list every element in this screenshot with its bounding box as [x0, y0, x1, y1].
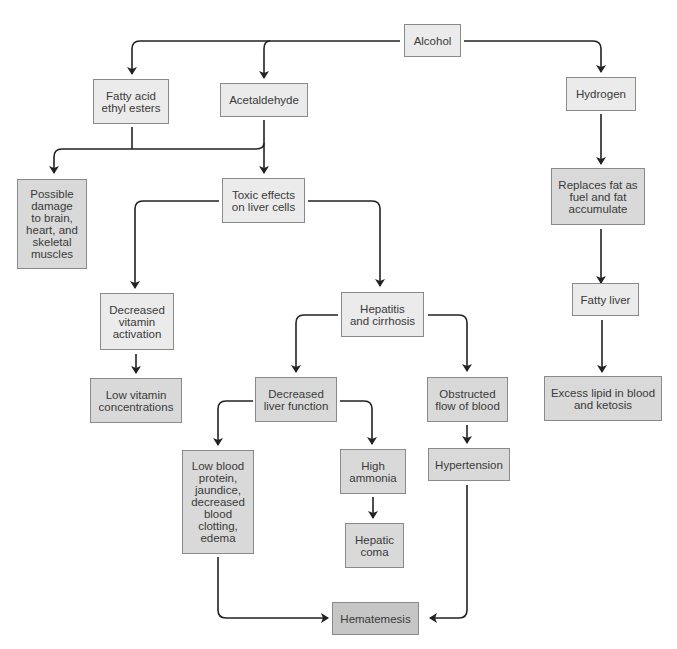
node-decreased-liver-function: Decreased liver function [255, 377, 337, 422]
node-high-ammonia: High ammonia [340, 449, 406, 494]
node-toxic-effects: Toxic effects on liver cells [222, 178, 305, 223]
node-alcohol: Alcohol [404, 24, 461, 57]
node-decreased-vitamin-activation: Decreased vitamin activation [100, 293, 174, 350]
node-replaces-fat: Replaces fat as fuel and fat accumulate [551, 168, 645, 225]
node-hepatitis-cirrhosis: Hepatitis and cirrhosis [341, 292, 424, 337]
node-hypertension: Hypertension [428, 448, 510, 481]
node-hydrogen: Hydrogen [566, 77, 636, 111]
node-possible-damage: Possible damage to brain, heart, and ske… [17, 179, 87, 269]
node-acetaldehyde: Acetaldehyde [220, 83, 308, 117]
alcohol-effects-flowchart: Alcohol Fatty acid ethyl esters Acetalde… [0, 0, 677, 649]
node-hematemesis: Hematemesis [332, 602, 419, 635]
node-fatty-acid-ethyl-esters: Fatty acid ethyl esters [93, 79, 169, 124]
node-obstructed-flow: Obstructed flow of blood [427, 377, 508, 422]
node-hepatic-coma: Hepatic coma [345, 523, 404, 568]
node-fatty-liver: Fatty liver [572, 283, 639, 316]
node-excess-lipid: Excess lipid in blood and ketosis [544, 376, 662, 421]
node-low-vitamin: Low vitamin concentrations [90, 378, 182, 423]
node-low-blood-protein: Low blood protein, jaundice, decreased b… [182, 450, 254, 554]
